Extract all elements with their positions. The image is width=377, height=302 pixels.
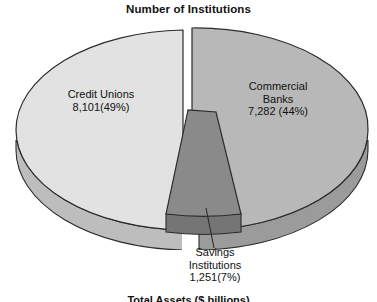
pie-slice-credit-unions[interactable] — [16, 30, 183, 250]
chart-footnote: Total Assets ($ billions) — [0, 294, 377, 302]
pie-label-savings-institutions: Savings Institutions 1,251(7%) — [150, 246, 280, 284]
pie-label-credit-unions-name: Credit Unions — [26, 88, 176, 101]
pie-slice-savings-institutions-side — [166, 214, 241, 234]
pie-label-credit-unions-value: 8,101(49%) — [26, 101, 176, 114]
pie-label-commercial-banks-name-1: Commercial — [213, 80, 343, 93]
pie-label-commercial-banks-name-2: Banks — [213, 93, 343, 106]
pie-label-credit-unions: Credit Unions 8,101(49%) — [26, 88, 176, 113]
pie-label-commercial-banks: Commercial Banks 7,282 (44%) — [213, 80, 343, 118]
pie-label-savings-institutions-name-2: Institutions — [150, 259, 280, 272]
pie-label-commercial-banks-value: 7,282 (44%) — [213, 105, 343, 118]
pie-chart-figure: Number of Institutions Credi — [0, 0, 377, 302]
pie-label-savings-institutions-value: 1,251(7%) — [150, 271, 280, 284]
pie-label-savings-institutions-name-1: Savings — [150, 246, 280, 259]
